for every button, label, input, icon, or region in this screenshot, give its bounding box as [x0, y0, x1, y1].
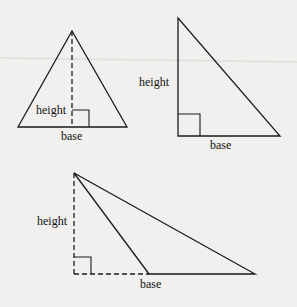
base-label-obtuse: base: [140, 278, 161, 290]
right-angle-marker-right: [178, 114, 200, 136]
height-label-acute: height: [36, 104, 66, 116]
base-label-right: base: [210, 139, 231, 151]
triangle-right-outline: [178, 18, 280, 136]
right-angle-marker-acute: [72, 110, 89, 127]
triangle-obtuse-outline: [74, 173, 255, 274]
triangle-obtuse: [74, 173, 255, 274]
height-label-right: height: [139, 76, 169, 88]
height-label-obtuse: height: [37, 215, 67, 227]
triangle-acute: [18, 31, 127, 127]
scan-bleed-line: [0, 58, 297, 62]
base-label-acute: base: [61, 130, 82, 142]
triangle-figure: height base height base height base: [0, 0, 297, 307]
triangle-right: [178, 18, 280, 136]
right-angle-marker-obtuse: [74, 257, 91, 274]
triangles-drawing: [0, 0, 297, 307]
